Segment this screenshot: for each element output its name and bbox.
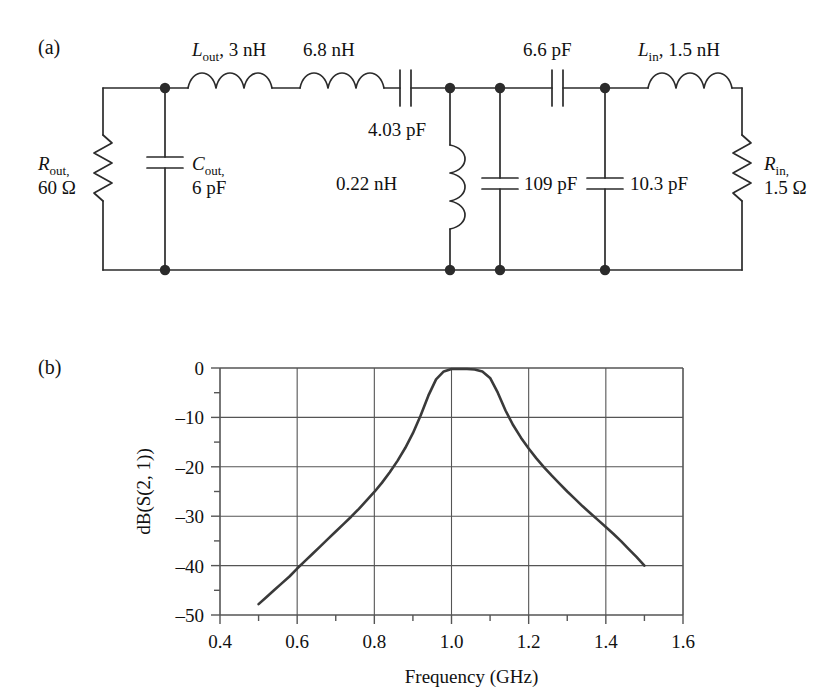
x-tick-label: 1.6 <box>671 631 695 652</box>
label-l-in-subscript: in <box>649 49 660 64</box>
label-r-in-symbol: R <box>763 153 776 174</box>
inductor-l-out <box>188 73 272 88</box>
x-tick-label: 0.4 <box>208 631 232 652</box>
junction-dot-node4-bottom <box>600 265 610 275</box>
y-axis-title: dB(S(2, 1)) <box>133 448 155 535</box>
x-axis-title: Frequency (GHz) <box>405 666 538 688</box>
label-r-in-line1: Rin, <box>763 153 789 178</box>
label-l-in-symbol: L <box>637 39 649 60</box>
inductor-0p22nh <box>450 145 465 229</box>
label-c-out-line1: Cout, <box>192 153 225 178</box>
label-l-out-symbol: L <box>191 39 203 60</box>
label-l-in: Lin, 1.5 nH <box>637 39 720 64</box>
junction-dot-node3-bottom <box>495 265 505 275</box>
x-tick-label: 1.2 <box>517 631 541 652</box>
x-tick-label: 0.8 <box>362 631 386 652</box>
y-tick-label: –10 <box>175 407 205 428</box>
label-inductor-0p22nh: 0.22 nH <box>336 173 398 194</box>
resistor-r-out <box>94 135 112 201</box>
label-cap-4p03pf: 4.03 pF <box>368 119 426 140</box>
label-r-out-symbol: R <box>37 153 50 174</box>
y-tick-label: –20 <box>175 457 205 478</box>
label-l-out: Lout, 3 nH <box>191 39 266 64</box>
label-l-out-subscript: out <box>203 49 220 64</box>
label-r-out-subscript: out, <box>50 163 70 178</box>
label-cap-6p6pf: 6.6 pF <box>523 39 572 60</box>
label-r-in-value: 1.5 Ω <box>764 177 807 198</box>
y-tick-label: –30 <box>175 506 205 527</box>
inductor-l-in <box>648 73 732 88</box>
resistor-r-in <box>733 135 751 201</box>
x-tick-label: 0.6 <box>285 631 309 652</box>
x-tick-label: 1.0 <box>440 631 464 652</box>
circuit-svg: Lout, 3 nH 6.8 nH 4.03 pF 6.6 pF Lin, 1.… <box>0 0 831 320</box>
chart-x-tick-labels: 0.40.60.81.01.21.41.6 <box>208 631 695 652</box>
chart-ticks <box>211 368 683 624</box>
label-r-in-subscript: in, <box>776 163 789 178</box>
inductor-6p8nh <box>300 73 384 88</box>
label-c-out-subscript: out, <box>205 163 225 178</box>
label-l-in-value: , 1.5 nH <box>659 39 721 60</box>
label-cap-10p3pf: 10.3 pF <box>630 173 688 194</box>
label-inductor-6p8nh: 6.8 nH <box>303 39 355 60</box>
junction-dot-node3-top <box>495 83 505 93</box>
y-tick-label: –40 <box>175 556 205 577</box>
label-c-out-symbol: C <box>192 153 205 174</box>
y-tick-label: 0 <box>195 358 205 379</box>
x-tick-label: 1.4 <box>594 631 618 652</box>
label-r-out-line1: Rout, <box>37 153 69 178</box>
junction-dot-node2-top <box>445 83 455 93</box>
label-c-out-value: 6 pF <box>192 177 226 198</box>
junction-dot-node1-bottom <box>160 265 170 275</box>
chart-svg: 0.40.60.81.01.21.41.6 0–10–20–30–40–50 F… <box>0 330 831 695</box>
chart-y-tick-labels: 0–10–20–30–40–50 <box>175 358 205 626</box>
label-l-out-value: , 3 nH <box>219 39 266 60</box>
junction-dot-node2-bottom <box>445 265 455 275</box>
s21-response-chart: 0.40.60.81.01.21.41.6 0–10–20–30–40–50 F… <box>0 330 831 695</box>
circuit-schematic-figure: Lout, 3 nH 6.8 nH 4.03 pF 6.6 pF Lin, 1.… <box>0 0 831 320</box>
junction-dot-node1-top <box>160 83 170 93</box>
junction-dot-node4-top <box>600 83 610 93</box>
label-r-out-value: 60 Ω <box>38 177 76 198</box>
label-cap-109pf: 109 pF <box>524 173 577 194</box>
y-tick-label: –50 <box>175 605 205 626</box>
